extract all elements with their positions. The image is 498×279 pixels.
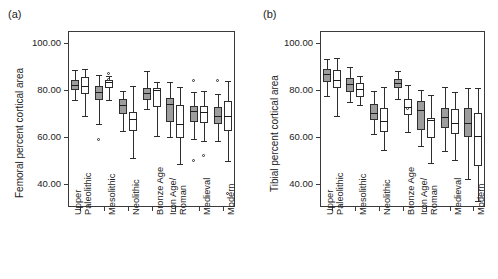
whisker-cap-lower bbox=[347, 102, 353, 103]
y-tick-mark bbox=[316, 184, 320, 185]
whisker-cap-upper bbox=[167, 82, 173, 83]
whisker-cap-upper bbox=[381, 87, 387, 88]
whisker-cap-upper bbox=[72, 70, 78, 71]
median-line bbox=[464, 123, 472, 124]
median-line bbox=[441, 117, 449, 118]
whisker-cap-lower bbox=[395, 99, 401, 100]
panel-b: (b) Tibial percent cortical area 40.0060… bbox=[249, 0, 498, 279]
whisker-cap-upper bbox=[130, 86, 136, 87]
median-line bbox=[451, 123, 459, 124]
median-line bbox=[95, 92, 103, 93]
panel-a-letter: (a) bbox=[8, 8, 21, 20]
median-line bbox=[417, 110, 425, 111]
median-line bbox=[105, 82, 113, 83]
median-line bbox=[370, 113, 378, 114]
box bbox=[143, 88, 151, 100]
y-tick-mark bbox=[64, 184, 68, 185]
median-line bbox=[71, 85, 79, 86]
median-line bbox=[129, 119, 137, 120]
whisker-cap-upper bbox=[324, 59, 330, 60]
x-tick-label: Medieval bbox=[203, 178, 213, 215]
median-line bbox=[190, 111, 198, 112]
whisker-cap-upper bbox=[475, 88, 481, 89]
outlier-point bbox=[226, 192, 229, 195]
whisker-cap-lower bbox=[82, 116, 88, 117]
median-line bbox=[153, 90, 161, 91]
x-tick-label: Medieval bbox=[454, 178, 464, 215]
whisker-cap-lower bbox=[405, 132, 411, 133]
whisker-cap-upper bbox=[225, 81, 231, 82]
whisker-cap-lower bbox=[96, 124, 102, 125]
outlier-point bbox=[107, 72, 110, 75]
median-line bbox=[427, 120, 435, 121]
median-line bbox=[474, 136, 482, 137]
whisker-cap-upper bbox=[428, 95, 434, 96]
median-line bbox=[166, 104, 174, 105]
x-tick-mark bbox=[152, 207, 153, 211]
median-line bbox=[356, 89, 364, 90]
median-line bbox=[380, 121, 388, 122]
whisker-cap-upper bbox=[357, 76, 363, 77]
x-tick-mark bbox=[403, 207, 404, 211]
whisker-cap-upper bbox=[215, 94, 221, 95]
box bbox=[190, 106, 198, 122]
whisker-cap-lower bbox=[177, 164, 183, 165]
x-tick-label: UpperPaleolithic bbox=[326, 173, 345, 215]
box bbox=[417, 101, 425, 129]
whisker-cap-upper bbox=[106, 76, 112, 77]
whisker-cap-upper bbox=[120, 91, 126, 92]
box bbox=[166, 98, 174, 121]
whisker-cap-upper bbox=[418, 90, 424, 91]
whisker-cap-upper bbox=[347, 67, 353, 68]
y-tick-label: 40.00 bbox=[16, 178, 61, 189]
whisker-cap-lower bbox=[334, 116, 340, 117]
whisker-cap-upper bbox=[395, 71, 401, 72]
x-tick-label: Mesolithic bbox=[108, 174, 118, 215]
y-tick-label: 100.00 bbox=[16, 37, 61, 48]
x-tick-mark bbox=[104, 207, 105, 211]
whisker-cap-lower bbox=[371, 134, 377, 135]
y-tick-mark bbox=[316, 43, 320, 44]
x-tick-mark bbox=[379, 207, 380, 211]
whisker-cap-upper bbox=[334, 58, 340, 59]
box bbox=[451, 109, 459, 134]
box bbox=[95, 86, 103, 100]
x-tick-mark bbox=[355, 207, 356, 211]
box bbox=[323, 69, 331, 82]
whisker-cap-upper bbox=[177, 87, 183, 88]
y-tick-label: 40.00 bbox=[268, 178, 313, 189]
x-tick-label: UpperPaleolithic bbox=[74, 173, 93, 215]
whisker-cap-lower bbox=[144, 109, 150, 110]
x-tick-mark bbox=[223, 207, 224, 211]
median-line bbox=[224, 116, 232, 117]
whisker-cap-upper bbox=[82, 69, 88, 70]
x-tick-label: Iron Age/Roman bbox=[420, 178, 439, 215]
whisker-cap-upper bbox=[191, 92, 197, 93]
panel-b-letter: (b) bbox=[263, 8, 276, 20]
y-tick-mark bbox=[64, 90, 68, 91]
x-tick-label: Neolithic bbox=[383, 179, 393, 215]
figure-root: (a) Femoral percent cortical area 40.006… bbox=[0, 0, 498, 279]
box bbox=[474, 113, 482, 166]
whisker-cap-upper bbox=[144, 71, 150, 72]
whisker-cap-lower bbox=[381, 150, 387, 151]
whisker-cap-lower bbox=[225, 161, 231, 162]
y-tick-label: 60.00 bbox=[16, 131, 61, 142]
median-line bbox=[176, 124, 184, 125]
whisker-cap-upper bbox=[442, 87, 448, 88]
whisker-cap-lower bbox=[191, 139, 197, 140]
whisker-cap-lower bbox=[475, 201, 481, 202]
y-tick-label: 80.00 bbox=[16, 84, 61, 95]
median-line bbox=[200, 112, 208, 113]
x-tick-mark bbox=[199, 207, 200, 211]
whisker-cap-upper bbox=[96, 75, 102, 76]
box bbox=[200, 106, 208, 123]
median-line bbox=[143, 93, 151, 94]
median-line bbox=[346, 84, 354, 85]
whisker-cap-lower bbox=[72, 100, 78, 101]
whisker-cap-lower bbox=[106, 100, 112, 101]
y-tick-mark bbox=[64, 43, 68, 44]
whisker-cap-lower bbox=[442, 151, 448, 152]
whisker-cap-upper bbox=[405, 85, 411, 86]
x-tick-label: Bronze Age bbox=[156, 167, 166, 215]
